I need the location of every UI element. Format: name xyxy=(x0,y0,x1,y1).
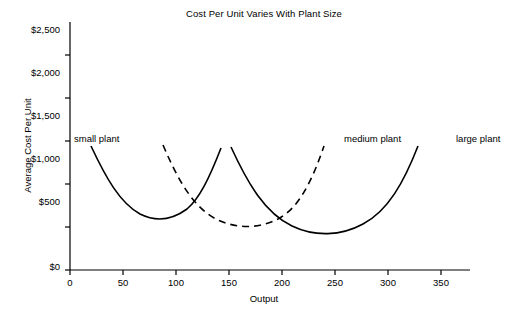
series-medium-plant xyxy=(163,145,324,227)
chart-svg xyxy=(0,0,528,314)
chart-container: Cost Per Unit Varies With Plant Size Ave… xyxy=(0,0,528,314)
x-tick-marks xyxy=(70,270,441,275)
series-large-plant xyxy=(231,146,418,234)
y-tick-marks xyxy=(65,55,70,270)
